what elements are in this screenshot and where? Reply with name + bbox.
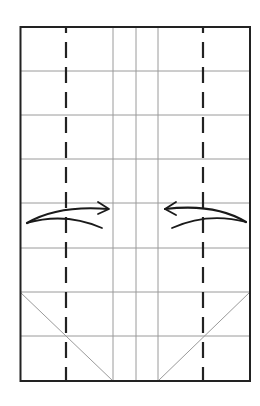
valley-fold-lines xyxy=(66,27,203,381)
crease-grid xyxy=(20,27,250,381)
fold-arrow-left-icon xyxy=(165,202,246,228)
sheet-border xyxy=(21,27,251,381)
origami-diagram xyxy=(0,0,260,406)
diagram-canvas xyxy=(0,0,260,406)
fold-arrow-right-icon xyxy=(27,202,109,228)
